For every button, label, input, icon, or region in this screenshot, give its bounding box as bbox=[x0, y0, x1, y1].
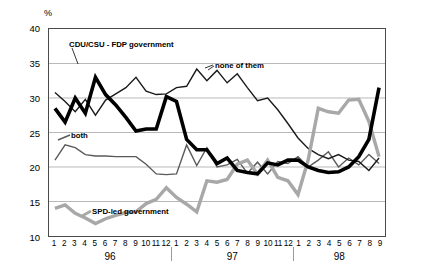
x-axis-year-label: 98 bbox=[334, 251, 345, 262]
plot-area bbox=[48, 28, 386, 237]
x-tick-label: 6 bbox=[103, 239, 108, 248]
x-tick-label: 5 bbox=[337, 239, 342, 248]
y-tick-label: 15 bbox=[16, 197, 40, 208]
y-tick-label: 40 bbox=[16, 23, 40, 34]
x-tick-label: 4 bbox=[205, 239, 210, 248]
x-tick-label: 4 bbox=[327, 239, 332, 248]
x-tick-label: 8 bbox=[368, 239, 373, 248]
x-tick-label: 9 bbox=[378, 239, 383, 248]
x-tick-label: 9 bbox=[133, 239, 138, 248]
x-tick-label: 7 bbox=[113, 239, 118, 248]
annotation-none-of-them: none of them bbox=[215, 61, 264, 70]
x-tick-label: 10 bbox=[141, 239, 150, 248]
x-tick-label: 7 bbox=[235, 239, 240, 248]
x-tick-label: 4 bbox=[82, 239, 87, 248]
y-tick-label: 20 bbox=[16, 162, 40, 173]
x-tick-label: 5 bbox=[215, 239, 220, 248]
x-tick-label: 11 bbox=[274, 239, 283, 248]
series-line-cdu-csu-fdp-government bbox=[55, 77, 379, 174]
y-axis-unit-label: % bbox=[44, 8, 52, 18]
series-line-both bbox=[55, 145, 379, 175]
x-tick-label: 2 bbox=[306, 239, 311, 248]
annotation-both: both bbox=[71, 131, 88, 140]
x-tick-label: 1 bbox=[174, 239, 179, 248]
x-tick-label: 11 bbox=[152, 239, 161, 248]
x-tick-label: 5 bbox=[92, 239, 97, 248]
x-tick-label: 6 bbox=[225, 239, 230, 248]
x-tick-label: 3 bbox=[194, 239, 199, 248]
x-tick-label: 7 bbox=[357, 239, 362, 248]
x-tick-label: 8 bbox=[123, 239, 128, 248]
x-tick-label: 9 bbox=[255, 239, 260, 248]
y-tick-label: 30 bbox=[16, 92, 40, 103]
x-tick-label: 3 bbox=[317, 239, 322, 248]
x-tick-label: 3 bbox=[72, 239, 77, 248]
chart-container: % 10152025303540 12345678910111212345678… bbox=[0, 0, 431, 272]
x-tick-label: 2 bbox=[184, 239, 189, 248]
x-tick-label: 12 bbox=[284, 239, 293, 248]
x-axis-year-separator bbox=[171, 247, 172, 261]
x-axis-year-label: 97 bbox=[227, 251, 238, 262]
x-tick-label: 6 bbox=[347, 239, 352, 248]
x-tick-label: 12 bbox=[162, 239, 171, 248]
y-axis: 10152025303540 bbox=[14, 0, 40, 272]
annotation-spd-led: SPD-led government bbox=[92, 207, 169, 216]
x-axis-year-label: 96 bbox=[104, 251, 115, 262]
x-tick-label: 2 bbox=[62, 239, 67, 248]
x-tick-label: 10 bbox=[263, 239, 272, 248]
y-tick-label: 35 bbox=[16, 57, 40, 68]
x-tick-label: 1 bbox=[52, 239, 57, 248]
x-tick-label: 1 bbox=[296, 239, 301, 248]
annotation-cducsu-fdp: CDU/CSU - FDP government bbox=[69, 40, 174, 49]
x-axis-year-separator bbox=[293, 247, 294, 261]
y-tick-label: 25 bbox=[16, 127, 40, 138]
y-tick-label: 10 bbox=[16, 232, 40, 243]
x-tick-label: 8 bbox=[245, 239, 250, 248]
